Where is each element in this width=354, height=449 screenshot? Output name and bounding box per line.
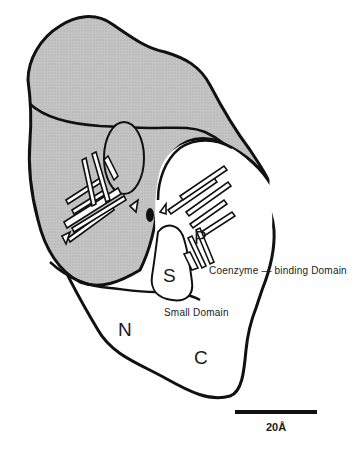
hinge-oval (104, 122, 144, 194)
p-site-label: P (194, 227, 207, 249)
small-domain-label: Small Domain (164, 307, 229, 318)
coenzyme-domain-label: Coenzyme — binding Domain (209, 265, 347, 276)
active-site-dot (146, 208, 154, 222)
scale-bar (235, 410, 317, 414)
n-terminus-label: N (118, 319, 132, 341)
domain-diagram (0, 0, 354, 449)
c-terminus-label: C (194, 347, 208, 369)
scale-bar-label: 20Å (266, 421, 286, 433)
s-site-label: S (163, 265, 176, 287)
